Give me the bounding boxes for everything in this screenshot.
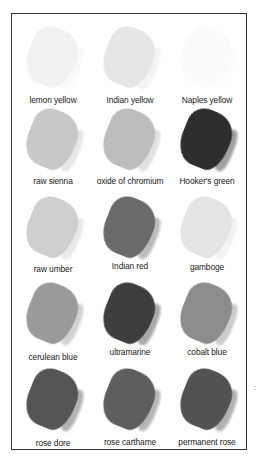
swatch-cell-cerulean-blue: cerulean blue [14, 280, 92, 365]
swatch-label: lemon yellow [14, 95, 92, 105]
swatch-label: Indian yellow [91, 95, 169, 105]
swatch-cell-rose-dore: rose dore [14, 366, 92, 451]
paint-swatch [173, 277, 239, 349]
swatch-cell-indian-red: Indian red [91, 194, 169, 279]
swatch-grid: lemon yellow Indian yellow Naples yellow… [12, 14, 246, 449]
paint-swatch [96, 191, 162, 263]
paint-swatch [173, 21, 239, 93]
paint-swatch [96, 21, 162, 93]
swatch-cell-permanent-rose: permanent rose [168, 366, 246, 451]
swatch-label: raw umber [14, 264, 92, 274]
paint-swatch [19, 363, 85, 435]
paint-swatch [173, 363, 239, 435]
swatch-label: Naples yellow [168, 95, 246, 105]
swatch-label: Hooker's green [168, 176, 246, 186]
swatch-cell-raw-umber: raw umber [14, 194, 92, 279]
swatch-label: oxide of chromium [91, 176, 169, 186]
swatch-cell-cobalt-blue: cobalt blue [168, 280, 246, 365]
swatch-label: ultramarine [91, 347, 169, 357]
swatch-label: Indian red [91, 261, 169, 271]
paint-swatch [173, 103, 239, 175]
swatch-cell-naples-yellow: Naples yellow [168, 24, 246, 109]
swatch-label: cerulean blue [14, 352, 92, 362]
paint-swatch [19, 21, 85, 93]
swatch-cell-raw-sienna: raw sienna [14, 106, 92, 191]
paint-swatch [19, 103, 85, 175]
margin-mark: : [254, 384, 256, 391]
swatch-cell-hookers-green: Hooker's green [168, 106, 246, 191]
paint-swatch [96, 363, 162, 435]
paint-swatch [19, 191, 85, 263]
paint-swatch [19, 277, 85, 349]
swatch-cell-lemon-yellow: lemon yellow [14, 24, 92, 109]
swatch-label: rose dore [14, 438, 92, 448]
paint-swatch [96, 277, 162, 349]
swatch-cell-indian-yellow: Indian yellow [91, 24, 169, 109]
swatch-label: gamboge [168, 262, 246, 272]
swatch-label: permanent rose [168, 437, 246, 447]
swatch-label: cobalt blue [168, 347, 246, 357]
swatch-label: rose carthame [91, 437, 169, 447]
swatch-cell-ultramarine: ultramarine [91, 280, 169, 365]
paint-swatch [173, 191, 239, 263]
swatch-label: raw sienna [14, 176, 92, 186]
swatch-chart-frame: lemon yellow Indian yellow Naples yellow… [11, 13, 247, 450]
swatch-cell-gamboge: gamboge [168, 194, 246, 279]
paint-swatch [96, 103, 162, 175]
swatch-cell-rose-carthame: rose carthame [91, 366, 169, 451]
swatch-cell-oxide-of-chromium: oxide of chromium [91, 106, 169, 191]
